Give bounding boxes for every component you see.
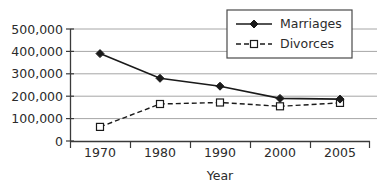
x-tick-label-2000: 2000 bbox=[264, 145, 296, 160]
y-tick-label-100000: 100,000 bbox=[11, 111, 63, 126]
marriages-point-2000 bbox=[276, 94, 284, 102]
y-tick-label-300000: 300,000 bbox=[11, 66, 63, 81]
x-tick-label-1990: 1990 bbox=[204, 145, 236, 160]
marriages-point-1970 bbox=[96, 50, 104, 58]
divorces-point-1970 bbox=[97, 123, 104, 130]
x-axis-title: Year bbox=[206, 168, 234, 183]
y-tick-label-500000: 500,000 bbox=[11, 22, 63, 37]
divorces-point-2000 bbox=[277, 103, 284, 110]
legend-divorces-marker bbox=[251, 41, 258, 48]
marriages-line bbox=[100, 54, 340, 100]
legend-label-marriages: Marriages bbox=[280, 16, 342, 31]
line-chart: 500,000 400,000 300,000 200,000 100,000 … bbox=[0, 0, 377, 186]
marriages-point-1980 bbox=[156, 74, 164, 82]
y-tick-label-200000: 200,000 bbox=[11, 89, 63, 104]
marriages-point-1990 bbox=[216, 82, 224, 90]
legend-label-divorces: Divorces bbox=[280, 36, 334, 51]
y-tick-label-400000: 400,000 bbox=[11, 44, 63, 59]
y-tick-label-0: 0 bbox=[55, 134, 63, 149]
x-tick-label-2005: 2005 bbox=[324, 145, 356, 160]
series-divorces bbox=[97, 99, 344, 130]
x-axis: 1970 1980 1990 2000 2005 Year bbox=[70, 141, 370, 183]
x-tick-label-1980: 1980 bbox=[144, 145, 176, 160]
divorces-point-1990 bbox=[217, 99, 224, 106]
chart-canvas: 500,000 400,000 300,000 200,000 100,000 … bbox=[0, 0, 377, 186]
x-tick-label-1970: 1970 bbox=[84, 145, 116, 160]
y-axis: 500,000 400,000 300,000 200,000 100,000 … bbox=[11, 22, 74, 149]
legend: Marriages Divorces bbox=[227, 10, 352, 58]
divorces-point-1980 bbox=[157, 101, 164, 108]
